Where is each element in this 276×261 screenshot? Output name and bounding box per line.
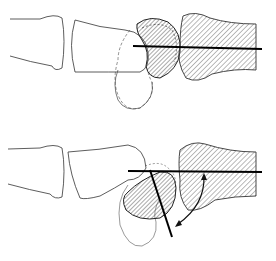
- top-panel: [10, 13, 262, 109]
- anatomy-diagram: [0, 0, 276, 261]
- scaphoid-bone: [115, 70, 153, 109]
- metacarpal-bone: [8, 146, 64, 199]
- metacarpal-bone: [10, 16, 64, 70]
- arrow-head-down: [175, 220, 182, 227]
- radius-bone: [179, 143, 256, 210]
- radius-axis-line: [128, 171, 262, 172]
- bottom-panel: [8, 143, 262, 246]
